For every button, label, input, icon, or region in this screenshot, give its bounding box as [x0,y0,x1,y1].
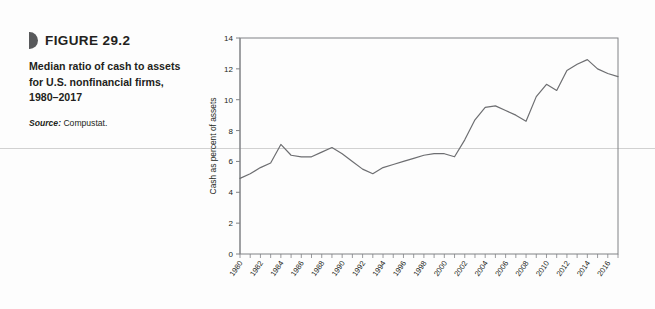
figure-number: FIGURE 29.2 [45,33,130,48]
y-tick-label-8: 8 [229,127,234,136]
y-tick-label-12: 12 [224,65,233,74]
figure-title: Median ratio of cash to assets for U.S. … [29,59,194,106]
x-axis: 1980198219841986198819901992199419961998… [228,254,618,278]
y-tick-label-10: 10 [224,96,233,105]
x-tick-label-1994: 1994 [371,259,388,278]
plot-frame [240,38,618,254]
x-tick-label-2010: 2010 [534,259,551,278]
x-tick-label-2006: 2006 [493,259,510,278]
x-tick-label-1984: 1984 [268,259,285,278]
line-chart: 02468101214 Cash as percent of assets 19… [205,22,635,292]
y-tick-label-0: 0 [229,250,234,259]
x-tick-label-2014: 2014 [575,259,592,278]
x-tick-label-1980: 1980 [228,259,245,278]
series-line-median-cash-ratio [240,60,618,179]
x-tick-label-2000: 2000 [432,259,449,278]
x-tick-label-2008: 2008 [514,259,531,278]
x-tick-label-1992: 1992 [350,259,367,278]
figure-wedge-icon [29,32,38,49]
y-axis-title: Cash as percent of assets [208,98,218,195]
x-tick-label-1996: 1996 [391,259,408,278]
y-tick-label-14: 14 [224,34,233,43]
x-tick-label-1988: 1988 [309,259,326,278]
figure-source-label: Source: [29,118,61,128]
y-axis: 02468101214 Cash as percent of assets [208,34,240,259]
x-tick-label-1986: 1986 [289,259,306,278]
x-tick-label-group: 1980198219841986198819901992199419961998… [228,259,613,278]
figure-page: FIGURE 29.2 Median ratio of cash to asse… [0,0,655,309]
x-tick-label-1990: 1990 [330,259,347,278]
figure-caption-block: FIGURE 29.2 Median ratio of cash to asse… [29,32,194,129]
x-tick-label-2012: 2012 [554,259,571,278]
y-tick-group: 02468101214 [224,34,240,259]
figure-source: Source: Compustat. [29,117,194,129]
x-tick-group [240,254,618,258]
figure-source-value: Compustat. [63,118,107,128]
x-tick-label-1998: 1998 [411,259,428,278]
chart-svg: 02468101214 Cash as percent of assets 19… [205,22,635,292]
y-tick-label-4: 4 [229,188,234,197]
x-tick-label-2004: 2004 [473,259,490,278]
x-tick-label-2016: 2016 [595,259,612,278]
plot-frame-group [240,38,618,254]
x-tick-label-2002: 2002 [452,259,469,278]
x-tick-label-1982: 1982 [248,259,265,278]
y-tick-label-2: 2 [229,219,234,228]
figure-heading: FIGURE 29.2 [29,32,194,49]
y-tick-label-6: 6 [229,157,234,166]
